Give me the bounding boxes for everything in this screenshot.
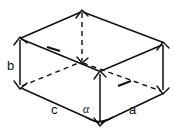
figure-container: b c a α — [0, 0, 175, 139]
label-width-a: a — [129, 102, 137, 117]
edge-top-back-right — [83, 12, 162, 42]
edge-top-left-front — [21, 39, 99, 71]
tick-mark-bottom-right-diagonal — [118, 81, 131, 86]
visible-edges-group — [21, 12, 162, 123]
hidden-edge-bottom-left-back — [22, 62, 81, 86]
hidden-edges-group — [22, 13, 161, 91]
cuboid-diagram: b c a α — [0, 0, 175, 139]
edge-top-left-back — [21, 12, 81, 38]
label-height-b: b — [7, 58, 14, 73]
edge-top-front-right — [101, 45, 162, 71]
label-depth-c: c — [51, 102, 58, 117]
label-angle-alpha: α — [83, 102, 90, 116]
